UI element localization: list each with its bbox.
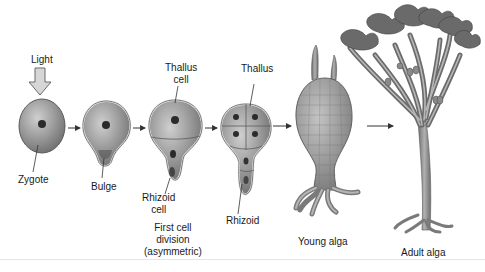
first-cell-division-caption: First cell division (asymmetric) [144, 222, 202, 258]
first-division-cell-icon [149, 86, 202, 194]
bulge-cell-icon [83, 101, 130, 178]
rhizoid-cell-label: Rhizoid cell [142, 192, 175, 216]
thallus-label: Thallus [241, 63, 273, 75]
zygote-label: Zygote [18, 174, 49, 186]
alga-development-diagram: Light Zygote Bulge Thallus cell Rhizoid … [0, 0, 485, 272]
young-alga-caption: Young alga [298, 236, 348, 248]
light-arrow-icon [29, 68, 51, 95]
four-cell-embryo-icon [221, 84, 271, 214]
adult-alga-icon [341, 5, 481, 232]
adult-alga-caption: Adult alga [401, 247, 445, 259]
diagram-illustration [0, 0, 485, 272]
young-alga-icon [296, 45, 358, 214]
bulge-label: Bulge [91, 181, 117, 193]
light-label: Light [31, 54, 53, 66]
rhizoid-label: Rhizoid [226, 215, 259, 227]
bottom-divider [0, 259, 485, 260]
thallus-cell-label: Thallus cell [165, 62, 197, 86]
zygote-cell-icon [19, 99, 65, 172]
